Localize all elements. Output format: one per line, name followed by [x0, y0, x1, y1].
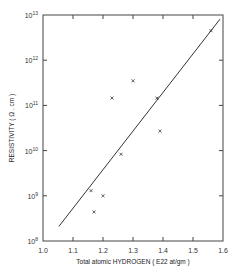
x-tick-label: 1.6: [218, 247, 228, 254]
data-point-marker: [120, 153, 123, 156]
data-point-marker: [159, 130, 162, 133]
plot-frame: [43, 15, 223, 241]
x-tick-label: 1.0: [38, 247, 48, 254]
x-tick-label: 1.5: [188, 247, 198, 254]
data-point-marker: [132, 79, 135, 82]
chart: 1.01.11.21.31.41.51.61081091010101110121…: [0, 0, 241, 276]
y-tick-label: 109: [27, 191, 38, 200]
data-point-marker: [210, 29, 213, 32]
axis-ticks: [43, 15, 223, 241]
x-axis-label: Total atomic HYDROGEN ( E22 at/gm ): [76, 258, 189, 266]
x-tick-label: 1.3: [128, 247, 138, 254]
data-point-marker: [102, 194, 105, 197]
x-tick-label: 1.2: [98, 247, 108, 254]
data-point-marker: [93, 210, 96, 213]
y-tick-label: 1010: [25, 146, 39, 155]
y-tick-label: 1011: [25, 100, 38, 109]
data-point-marker: [90, 189, 93, 192]
x-tick-label: 1.1: [68, 247, 78, 254]
y-tick-label: 1012: [25, 55, 39, 64]
data-point-marker: [111, 97, 114, 100]
y-tick-label: 108: [27, 236, 38, 245]
data-points: [90, 29, 213, 213]
y-tick-label: 1013: [25, 10, 39, 19]
x-tick-label: 1.4: [158, 247, 168, 254]
fit-line: [59, 19, 220, 226]
tick-labels: 1.01.11.21.31.41.51.61081091010101110121…: [25, 10, 228, 254]
y-axis-label: RESISTIVITY ( Ω . cm ): [8, 94, 16, 162]
